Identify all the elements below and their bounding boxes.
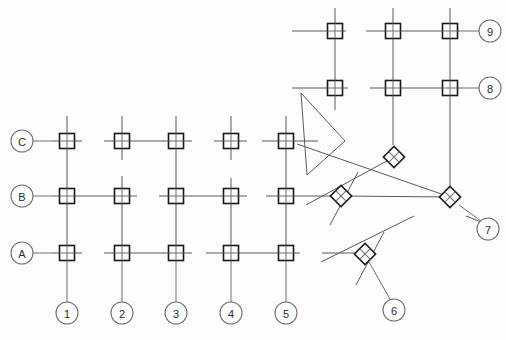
- diagonal-gridlines-layer: [297, 144, 481, 285]
- column-A4: [224, 246, 239, 261]
- column-R8c: [443, 81, 458, 96]
- grid-bubble-4[interactable]: 4: [220, 302, 242, 324]
- column-A5: [279, 246, 294, 261]
- column-B2: [115, 189, 130, 204]
- grid-bubble-label-2: 2: [119, 308, 125, 320]
- square-columns-layer: [60, 24, 458, 261]
- grid-plan-svg: CBA123459876: [0, 0, 506, 340]
- grid-bubble-2[interactable]: 2: [111, 302, 133, 324]
- triangle-marker-layer: [301, 93, 345, 175]
- column-A1: [60, 246, 75, 261]
- column-C5: [279, 134, 294, 149]
- column-R9a: [328, 24, 343, 39]
- column-D3: [439, 186, 460, 207]
- grid-bubble-5[interactable]: 5: [275, 302, 297, 324]
- column-D2: [330, 185, 351, 206]
- column-R8a: [328, 81, 343, 96]
- column-C4: [224, 134, 239, 149]
- grid-bubble-label-4: 4: [228, 308, 234, 320]
- grid-bubble-A[interactable]: A: [11, 242, 33, 264]
- grid-bubble-9[interactable]: 9: [479, 20, 501, 42]
- gridline-diag-d: [341, 196, 450, 197]
- gridline-diag-a: [297, 144, 450, 197]
- transition-triangle-icon: [301, 93, 345, 175]
- column-C1: [60, 134, 75, 149]
- grid-bubble-label-1: 1: [64, 308, 70, 320]
- column-B5: [279, 189, 294, 204]
- diamond-columns-layer: [330, 146, 460, 264]
- grid-bubble-3[interactable]: 3: [165, 302, 187, 324]
- grid-bubble-label-8: 8: [487, 83, 493, 95]
- column-D4: [354, 243, 375, 264]
- column-R8b: [386, 81, 401, 96]
- grid-bubble-C[interactable]: C: [11, 130, 33, 152]
- grid-bubble-label-C: C: [18, 136, 26, 148]
- grid-bubble-label-B: B: [18, 191, 25, 203]
- grid-bubble-label-9: 9: [487, 26, 493, 38]
- grid-bubble-B[interactable]: B: [11, 185, 33, 207]
- leader-rot-7: [459, 205, 481, 221]
- column-R9c: [443, 24, 458, 39]
- column-D1: [383, 146, 404, 167]
- column-A3: [169, 246, 184, 261]
- column-B4: [224, 189, 239, 204]
- grid-bubble-label-6: 6: [391, 305, 397, 317]
- grid-bubble-6[interactable]: 6: [383, 299, 405, 321]
- column-B3: [169, 189, 184, 204]
- column-R9b: [386, 24, 401, 39]
- column-B1: [60, 189, 75, 204]
- grid-bubble-1[interactable]: 1: [56, 302, 78, 324]
- column-A2: [115, 246, 130, 261]
- cad-drawing-canvas: CBA123459876: [0, 0, 506, 340]
- grid-bubble-label-A: A: [18, 248, 26, 260]
- column-C2: [115, 134, 130, 149]
- grid-bubble-label-3: 3: [173, 308, 179, 320]
- column-C3: [169, 134, 184, 149]
- grid-bubble-7[interactable]: 7: [477, 218, 499, 240]
- leader-rot-6: [369, 262, 390, 299]
- grid-bubbles-layer: CBA123459876: [11, 20, 501, 324]
- grid-bubble-8[interactable]: 8: [479, 77, 501, 99]
- orthogonal-gridlines-layer: [33, 116, 364, 302]
- grid-bubble-label-5: 5: [283, 308, 289, 320]
- grid-bubble-label-7: 7: [485, 224, 491, 236]
